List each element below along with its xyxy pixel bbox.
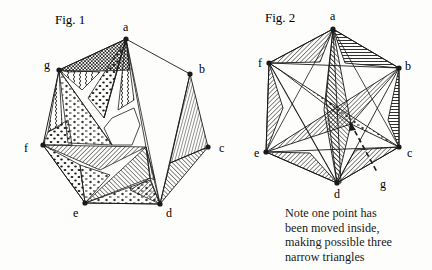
note-line: making possible three bbox=[285, 235, 430, 250]
fig2-label-a: a bbox=[330, 9, 336, 23]
fig1-label-b: b bbox=[199, 62, 205, 76]
fig2-vertex-e bbox=[263, 149, 268, 154]
fig2-label-g: g bbox=[380, 177, 386, 191]
fig1-label-g: g bbox=[44, 58, 50, 72]
fig2-label-e: e bbox=[254, 146, 259, 160]
fig2-vertex-f bbox=[266, 60, 271, 65]
fig2-vertex-c bbox=[396, 144, 401, 149]
fig1-vertex-b bbox=[187, 71, 192, 76]
figure-2: Fig. 2 bbox=[254, 9, 412, 201]
fig1-label-e: e bbox=[73, 206, 78, 220]
fig1-title: Fig. 1 bbox=[55, 12, 85, 27]
fig1-vertex-f bbox=[40, 142, 45, 147]
fig1-label-d: d bbox=[166, 206, 172, 220]
fig1-vertex-g bbox=[56, 67, 61, 72]
fig1-vertex-e bbox=[82, 200, 87, 205]
note-line: been moved inside, bbox=[285, 221, 430, 236]
fig1-vertex-a bbox=[123, 36, 128, 41]
fig2-label-b: b bbox=[405, 59, 411, 73]
fig2-vertex-a bbox=[330, 26, 335, 31]
fig2-vertex-g bbox=[349, 122, 353, 126]
fig2-vertex-b bbox=[396, 65, 401, 70]
fig2-label-d: d bbox=[334, 187, 340, 201]
fig2-label-c: c bbox=[407, 146, 412, 160]
fig1-edge-ab bbox=[126, 39, 190, 74]
fig1-vertex-c bbox=[205, 144, 210, 149]
fig1-label-a: a bbox=[123, 20, 129, 34]
fig1-hole bbox=[104, 108, 140, 145]
note-line: narrow triangles bbox=[285, 250, 430, 265]
fig2-label-f: f bbox=[258, 56, 262, 70]
figure-1: Fig. 1 bbox=[24, 12, 224, 220]
fig1-label-c: c bbox=[219, 141, 224, 155]
fig1-vertex-d bbox=[157, 201, 162, 206]
fig1-label-f: f bbox=[24, 141, 28, 155]
fig2-title: Fig. 2 bbox=[265, 10, 295, 25]
fig2-vertex-d bbox=[334, 180, 339, 185]
note-line: Note one point has bbox=[285, 206, 430, 221]
fig2-region-bc bbox=[388, 68, 399, 147]
fig2-note: Note one point has been moved inside, ma… bbox=[285, 206, 430, 264]
